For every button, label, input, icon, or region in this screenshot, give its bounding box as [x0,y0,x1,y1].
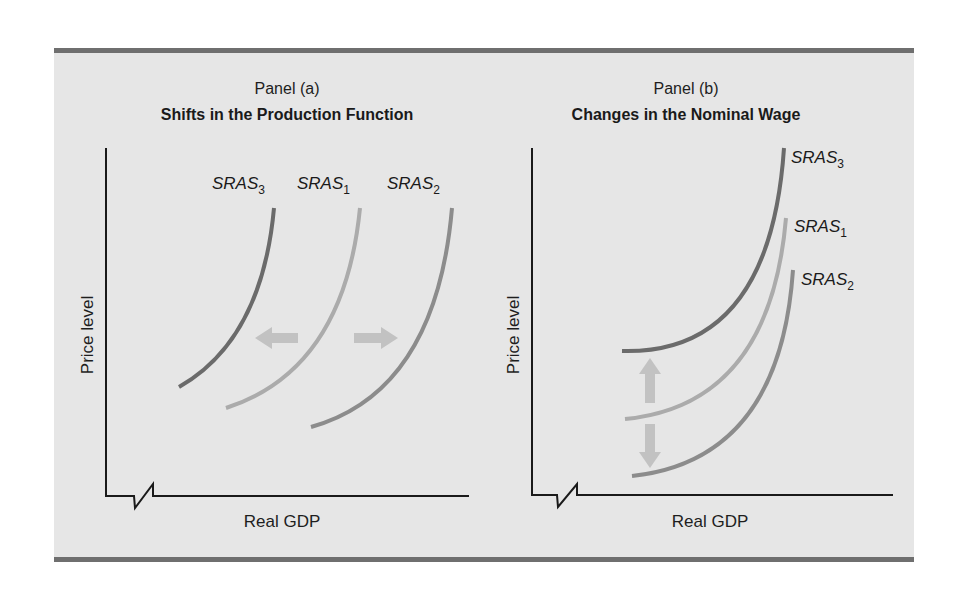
panel-a-sras2-label: SRAS2 [387,174,440,197]
panel-a-axes [106,148,469,508]
panel-b-sras3-curve [622,148,784,351]
panel-b-sras2-label: SRAS2 [801,270,854,293]
panel-a: Panel (a) Shifts in the Production Funct… [78,80,469,531]
panel-a-left-arrow-icon [255,327,298,349]
panel-a-y-axis-label: Price level [78,296,97,374]
panel-a-sras1-label: SRAS1 [297,174,350,197]
panel-b-y-axis-label: Price level [504,296,523,374]
panel-a-sras3-curve [179,208,274,387]
panel-a-sras3-label: SRAS3 [212,174,265,197]
panel-b: Panel (b) Changes in the Nominal Wage Pr… [504,80,893,531]
panel-b-label: Panel (b) [654,80,719,97]
panel-b-up-arrow-icon [639,358,661,403]
chart-canvas: Panel (a) Shifts in the Production Funct… [0,0,957,598]
panel-b-sras1-label: SRAS1 [794,217,847,240]
panel-b-title: Changes in the Nominal Wage [572,106,801,123]
panel-b-down-arrow-icon [639,424,661,468]
panel-a-sras1-curve [226,208,360,408]
panel-a-label: Panel (a) [255,80,320,97]
panel-a-x-axis-label: Real GDP [244,512,321,531]
panel-b-x-axis-label: Real GDP [672,512,749,531]
panel-b-sras3-label: SRAS3 [791,148,844,171]
panel-a-right-arrow-icon [354,327,398,349]
panel-a-title: Shifts in the Production Function [161,106,413,123]
